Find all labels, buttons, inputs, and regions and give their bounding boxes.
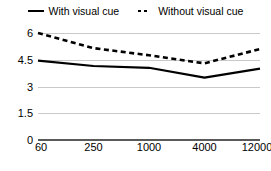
legend-label-without-visual-cue: Without visual cue (158, 6, 243, 17)
x-axis-tick-label: 1000 (137, 142, 161, 153)
y-axis-tick-label: 0 (27, 135, 33, 146)
x-axis-tick-label: 12000 (242, 142, 271, 153)
series-lines (38, 33, 260, 140)
solid-line-icon (28, 7, 44, 15)
y-axis-tick-label: 3 (27, 81, 33, 92)
series-line-with-visual-cue (38, 61, 260, 78)
y-axis-tick-label: 1.5 (18, 108, 33, 119)
y-axis-tick-label: 4.5 (18, 54, 33, 65)
y-axis-tick-label: 6 (27, 28, 33, 39)
series-line-without-visual-cue (38, 33, 260, 63)
x-axis-tick-label: 60 (35, 142, 47, 153)
plot-area: 01.534.56 (38, 33, 260, 140)
line-chart: With visual cue Without visual cue 01.53… (0, 0, 271, 171)
legend-item-without-visual-cue: Without visual cue (137, 6, 243, 17)
chart-legend: With visual cue Without visual cue (0, 0, 271, 22)
legend-item-with-visual-cue: With visual cue (28, 6, 120, 17)
dashed-line-icon (137, 7, 153, 15)
x-axis-tick-label: 4000 (192, 142, 216, 153)
legend-label-with-visual-cue: With visual cue (49, 6, 120, 17)
x-axis: 602501000400012000 (38, 142, 260, 158)
x-axis-tick-label: 250 (84, 142, 102, 153)
